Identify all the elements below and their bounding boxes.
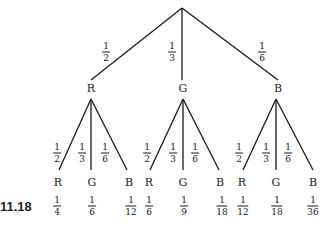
prob-label-G: 13: [168, 42, 176, 63]
edge-R-R: [59, 99, 91, 170]
node-G: G: [179, 83, 188, 94]
prob-label-BG: 13: [262, 143, 270, 164]
prob-label-RR: 12: [53, 143, 61, 164]
prob-label-BB: 16: [284, 143, 292, 164]
figure-caption: 11.18: [0, 199, 32, 214]
joint-prob-RB: 112: [125, 196, 136, 217]
joint-prob-BB: 136: [307, 196, 318, 217]
prob-label-GB: 16: [191, 143, 199, 164]
leaf-RG: G: [88, 177, 97, 188]
prob-label-R: 12: [102, 42, 110, 63]
node-R: R: [87, 83, 95, 94]
edge-R-B: [91, 99, 127, 170]
joint-prob-RG: 16: [88, 196, 96, 217]
prob-label-GR: 12: [143, 143, 151, 164]
edge-G-R: [150, 99, 183, 170]
prob-label-GG: 13: [169, 143, 177, 164]
prob-label-B: 16: [258, 42, 266, 63]
leaf-GB: B: [216, 177, 224, 188]
leaf-BR: R: [238, 177, 246, 188]
leaf-BG: G: [272, 177, 281, 188]
joint-prob-GR: 16: [145, 196, 153, 217]
prob-label-RB: 16: [101, 143, 109, 164]
leaf-BB: B: [309, 177, 317, 188]
edge-B-R: [243, 99, 276, 170]
prob-label-RG: 13: [78, 143, 86, 164]
leaf-GR: R: [145, 177, 153, 188]
edge-B-B: [276, 99, 313, 170]
edge-G-B: [183, 99, 219, 170]
prob-label-BR: 12: [235, 143, 243, 164]
joint-prob-GB: 118: [216, 196, 227, 217]
joint-prob-GG: 19: [180, 196, 188, 217]
node-B: B: [274, 83, 282, 94]
leaf-RR: R: [54, 177, 62, 188]
leaf-RB: B: [125, 177, 133, 188]
joint-prob-RR: 14: [53, 196, 61, 217]
joint-prob-BR: 112: [237, 196, 248, 217]
leaf-GG: G: [179, 177, 188, 188]
joint-prob-BG: 118: [271, 196, 282, 217]
